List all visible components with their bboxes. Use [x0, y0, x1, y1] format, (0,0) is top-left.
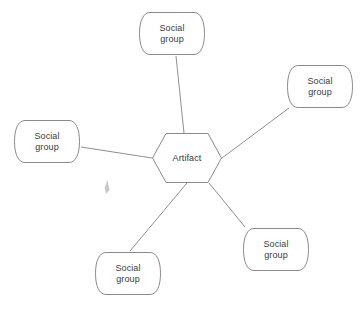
node-social-group-top-label: Social group: [139, 12, 205, 55]
node-social-group-right[interactable]: Social group: [287, 65, 353, 108]
node-social-group-bottom-right[interactable]: Social group: [243, 228, 309, 271]
node-social-group-bottom-right-label: Social group: [243, 228, 309, 271]
node-social-group-left-label: Social group: [14, 120, 80, 163]
diagram-canvas: Artifact Social group Social group Socia…: [0, 0, 364, 309]
node-layer: Artifact Social group Social group Socia…: [0, 0, 364, 309]
cursor-smudge-icon: [104, 180, 110, 194]
node-social-group-top[interactable]: Social group: [139, 12, 205, 55]
node-social-group-bottom-left-label: Social group: [95, 252, 161, 295]
node-artifact-label: Artifact: [152, 133, 222, 183]
node-social-group-left[interactable]: Social group: [14, 120, 80, 163]
node-social-group-right-label: Social group: [287, 65, 353, 108]
node-artifact[interactable]: Artifact: [152, 133, 222, 183]
node-social-group-bottom-left[interactable]: Social group: [95, 252, 161, 295]
